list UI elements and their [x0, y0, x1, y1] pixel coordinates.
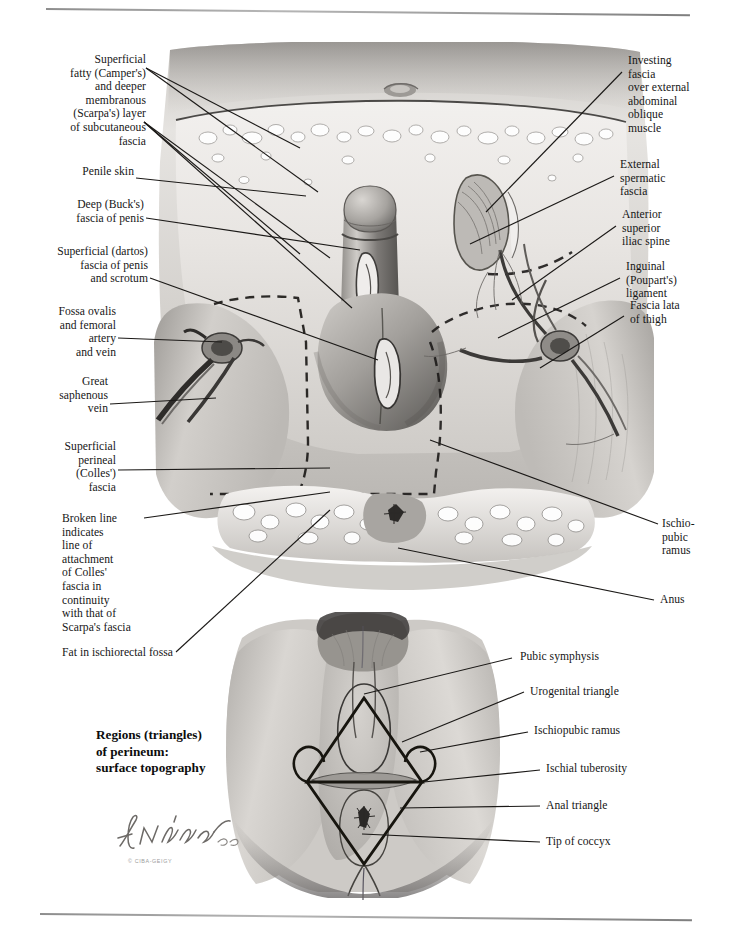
netter-signature-icon	[110, 812, 250, 860]
label-tip-of-coccyx: Tip of coccyx	[546, 835, 716, 849]
signature-copyright: © CIBA-GEIGY	[128, 858, 172, 864]
label-anal-triangle: Anal triangle	[546, 799, 716, 813]
label-broken-line-note: Broken line indicates line of attachment…	[62, 512, 156, 634]
top-divider-rule	[46, 8, 690, 16]
label-anus: Anus	[660, 593, 720, 607]
label-ischial-tuberosity: Ischial tuberosity	[546, 762, 716, 776]
label-pubic-symphysis: Pubic symphysis	[520, 650, 690, 664]
label-inguinal-ligament: Inguinal (Poupart's) ligament	[626, 260, 730, 301]
label-camper-scarpa: Superficial fatty (Camper's) and deeper …	[24, 53, 146, 148]
artist-signature: © CIBA-GEIGY	[110, 812, 250, 874]
label-colles-fascia: Superficial perineal (Colles') fascia	[14, 440, 116, 494]
label-anterior-superior-iliac-spine: Anterior superior iliac spine	[622, 208, 728, 249]
label-dartos-fascia: Superficial (dartos) fascia of penis and…	[16, 245, 148, 286]
plate-page: Superficial fatty (Camper's) and deeper …	[0, 0, 732, 935]
label-bucks-fascia: Deep (Buck's) fascia of penis	[24, 198, 144, 225]
label-fascia-lata: Fascia lata of thigh	[630, 299, 730, 326]
label-external-spermatic-fascia: External spermatic fascia	[620, 158, 724, 199]
label-urogenital-triangle: Urogenital triangle	[530, 685, 700, 699]
upper-dissection-illustration	[148, 42, 660, 622]
label-great-saphenous-vein: Great saphenous vein	[14, 375, 108, 416]
label-fat-in-ischiorectal-fossa: Fat in ischiorectal fossa	[62, 646, 222, 660]
label-investing-fascia: Investing fascia over external abdominal…	[628, 54, 730, 136]
label-penile-skin: Penile skin	[24, 165, 134, 179]
figure-title-regions-of-perineum: Regions (triangles) of perineum: surface…	[96, 727, 286, 777]
label-ischiopubic-ramus-lower: Ischiopubic ramus	[534, 724, 704, 738]
bottom-divider-rule	[40, 913, 692, 921]
label-fossa-ovalis: Fossa ovalis and femoral artery and vein	[14, 305, 116, 359]
label-ischiopubic-ramus: Ischio- pubic ramus	[662, 517, 732, 558]
